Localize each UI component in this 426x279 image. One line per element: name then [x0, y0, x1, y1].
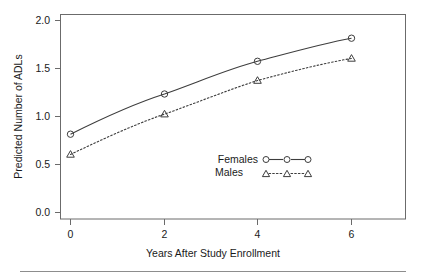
plot-frame [61, 15, 406, 220]
line-chart: 2.0 1.5 1.0 0.5 0.0 0 2 4 6 Years After … [0, 0, 426, 279]
legend-triangle-males-2 [304, 170, 311, 176]
y-tick-label-1-0: 1.0 [35, 110, 50, 122]
legend-label-males: Males [215, 166, 243, 178]
y-tick-label-0-5: 0.5 [35, 158, 50, 170]
x-tick-label-0: 0 [68, 228, 74, 240]
legend-marker-females [263, 157, 311, 163]
series-markers-males [67, 55, 356, 158]
y-tick-label-1-5: 1.5 [35, 62, 50, 74]
y-tick-label-2-0: 2.0 [35, 14, 50, 26]
y-tick-label-0-0: 0.0 [35, 206, 50, 218]
x-tick-label-4: 4 [255, 228, 261, 240]
legend-circle-females-2 [305, 157, 311, 163]
series-markers-females [67, 35, 354, 137]
figure-container: 2.0 1.5 1.0 0.5 0.0 0 2 4 6 Years After … [0, 0, 426, 279]
legend-label-females: Females [218, 153, 258, 165]
y-axis-ticks [55, 21, 61, 213]
legend-marker-males [262, 170, 311, 176]
series-line-males [71, 58, 352, 154]
legend-circle-females-0 [263, 157, 269, 163]
series-line-females [71, 38, 352, 134]
x-tick-label-6: 6 [349, 228, 355, 240]
legend-circle-females-1 [284, 157, 290, 163]
legend-triangle-males-1 [283, 170, 290, 176]
x-axis-ticks [71, 219, 352, 225]
x-tick-label-2: 2 [162, 228, 168, 240]
data-point-males-6 [348, 55, 356, 62]
chart-legend: Females Males [215, 153, 312, 178]
y-axis-title: Predicted Number of ADLs [12, 54, 24, 178]
x-axis-title: Years After Study Enrollment [146, 247, 280, 259]
